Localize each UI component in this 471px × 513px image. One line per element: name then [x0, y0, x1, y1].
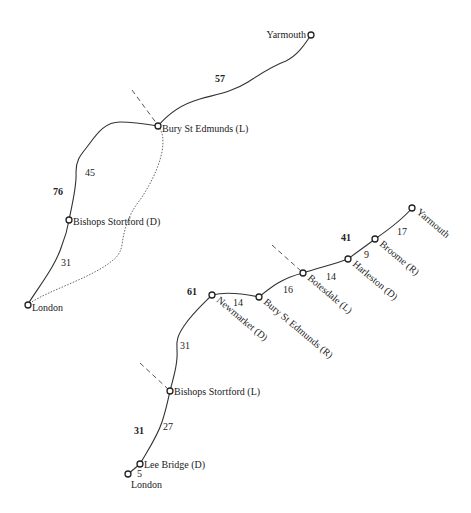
station-label-broome: Broome (R) [377, 238, 422, 278]
station-node-botesdale[interactable] [300, 270, 306, 276]
station-label-lee-bridge: Lee Bridge (D) [144, 459, 205, 471]
station-label-bury-st-edmunds: Bury St Edmunds (R) [261, 296, 335, 361]
station-node-broome[interactable] [372, 236, 378, 242]
station-label-yarmouth: Yarmouth [266, 29, 306, 40]
station-label-london: London [131, 479, 162, 490]
station-label-harleston: Harleston (D) [350, 258, 400, 303]
segment-distance-botesdale-harleston: 14 [326, 271, 336, 282]
station-node-london[interactable] [125, 471, 131, 477]
divider-line-bury [132, 90, 157, 124]
upper-diagram: Yarmouth Bury St Edmunds (L) Bishops Sto… [25, 29, 314, 313]
station-node-harleston[interactable] [345, 256, 351, 262]
total-distance-bishops-botesdale: 61 [187, 286, 197, 297]
total-distance-bury-yarmouth: 57 [215, 73, 225, 84]
route-harleston-broome [348, 239, 375, 259]
station-node-bury-st-edmunds[interactable] [155, 123, 161, 129]
station-label-london: London [32, 302, 63, 313]
segment-distance-newmarket-bury: 14 [233, 297, 243, 308]
station-node-lee-bridge[interactable] [137, 461, 143, 467]
station-node-yarmouth[interactable] [308, 32, 314, 38]
segment-distance-harleston-broome: 9 [364, 249, 369, 260]
segment-distance-lee-bishops: 27 [163, 421, 173, 432]
route-dotted-alternative [30, 126, 163, 303]
divider-line-bishops-stortford [140, 363, 168, 389]
station-label-bishops-stortford: Bishops Stortford (D) [73, 216, 160, 228]
segment-distance-bishops-newmarket: 31 [180, 340, 190, 351]
station-node-bury-st-edmunds[interactable] [256, 294, 262, 300]
station-node-yarmouth[interactable] [409, 205, 415, 211]
divider-line-botesdale [272, 245, 301, 271]
station-node-bishops-stortford[interactable] [167, 388, 173, 394]
total-distance-london-bury: 76 [53, 186, 63, 197]
station-label-bury-st-edmunds: Bury St Edmunds (L) [162, 123, 248, 135]
station-label-yarmouth: Yarmouth [415, 206, 452, 240]
route-bishops-newmarket [170, 295, 212, 391]
segment-distance-london-lee: 5 [137, 468, 142, 479]
route-bishops-bury [69, 122, 158, 220]
route-bury-yarmouth [158, 35, 311, 126]
total-distance-london-bishops: 31 [134, 425, 144, 436]
station-node-newmarket[interactable] [209, 292, 215, 298]
segment-distance-london-bishops: 31 [61, 257, 71, 268]
segment-distance-broome-yarmouth: 17 [397, 226, 407, 237]
segment-distance-bury-botesdale: 16 [283, 284, 293, 295]
lower-diagram: Yarmouth Broome (R) Harleston (D) Botesd… [125, 205, 452, 490]
station-label-bishops-stortford: Bishops Stortford (L) [174, 386, 260, 398]
route-diagram: Yarmouth Bury St Edmunds (L) Bishops Sto… [0, 0, 471, 513]
station-node-bishops-stortford[interactable] [66, 217, 72, 223]
total-distance-botesdale-yarmouth: 41 [341, 232, 351, 243]
segment-distance-bishops-bury: 45 [85, 167, 95, 178]
route-bury-botesdale [259, 273, 303, 297]
station-node-london[interactable] [25, 302, 31, 308]
